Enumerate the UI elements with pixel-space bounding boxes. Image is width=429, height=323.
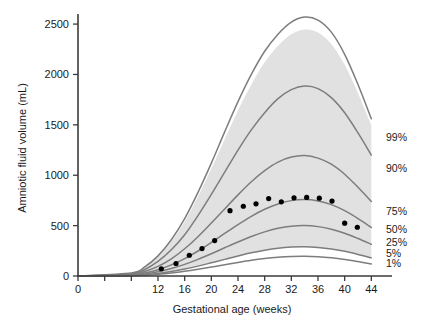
data-point — [212, 238, 217, 243]
data-point — [199, 246, 204, 251]
y-axis-title: Amniotic fluid volume (mL) — [16, 83, 28, 213]
chart-canvas: 0121620242832364044 05001000150020002500… — [0, 0, 429, 323]
x-axis-tick-labels: 0121620242832364044 — [75, 283, 378, 295]
x-tick-label: 24 — [232, 283, 244, 295]
x-tick-label: 0 — [75, 283, 81, 295]
data-point — [253, 201, 258, 206]
y-tick-label: 0 — [63, 270, 69, 282]
y-tick-label: 1500 — [45, 119, 69, 131]
x-tick-label: 16 — [179, 283, 191, 295]
percentile-label-90pct: 90% — [386, 162, 407, 174]
data-point — [291, 195, 296, 200]
data-point — [342, 221, 347, 226]
data-point — [159, 266, 164, 271]
x-axis-title: Gestational age (weeks) — [173, 303, 292, 315]
data-point — [355, 225, 360, 230]
data-point — [279, 199, 284, 204]
percentile-legend-labels: 99%90%75%50%25%5%1% — [386, 131, 407, 269]
percentile-label-25pct: 25% — [386, 236, 407, 248]
data-point — [241, 204, 246, 209]
x-tick-label: 32 — [285, 283, 297, 295]
x-tick-label: 36 — [312, 283, 324, 295]
x-tick-label: 20 — [205, 283, 217, 295]
y-tick-label: 1000 — [45, 169, 69, 181]
shaded-reference-band — [78, 29, 371, 276]
data-point — [227, 208, 232, 213]
y-axis-tick-labels: 05001000150020002500 — [45, 18, 69, 282]
data-point — [173, 261, 178, 266]
data-point — [317, 196, 322, 201]
data-point — [329, 198, 334, 203]
percentile-label-50pct: 50% — [386, 223, 407, 235]
y-tick-label: 2000 — [45, 68, 69, 80]
amniotic-fluid-volume-chart: 0121620242832364044 05001000150020002500… — [0, 0, 429, 323]
x-tick-label: 44 — [365, 283, 377, 295]
x-tick-label: 28 — [259, 283, 271, 295]
y-tick-label: 500 — [51, 220, 69, 232]
y-tick-label: 2500 — [45, 18, 69, 30]
x-tick-label: 12 — [152, 283, 164, 295]
data-point — [304, 195, 309, 200]
data-point — [187, 253, 192, 258]
percentile-label-1pct: 1% — [386, 257, 401, 269]
data-point — [266, 196, 271, 201]
percentile-label-99pct: 99% — [386, 131, 407, 143]
percentile-label-75pct: 75% — [386, 205, 407, 217]
x-tick-label: 40 — [339, 283, 351, 295]
